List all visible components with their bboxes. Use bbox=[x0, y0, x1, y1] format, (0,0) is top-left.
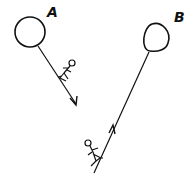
balloon-b-label: B bbox=[174, 9, 185, 25]
figure-a bbox=[58, 60, 75, 81]
balloon-a-label: A bbox=[47, 4, 58, 20]
balloon-a bbox=[15, 17, 77, 105]
balloon-b-rope bbox=[94, 52, 149, 173]
balloon-b-envelope bbox=[144, 23, 169, 51]
balloons-diagram bbox=[0, 0, 195, 183]
figure-b bbox=[85, 140, 103, 166]
balloon-a-rope bbox=[38, 46, 76, 104]
balloon-a-envelope bbox=[15, 17, 45, 47]
balloon-b bbox=[94, 23, 169, 173]
